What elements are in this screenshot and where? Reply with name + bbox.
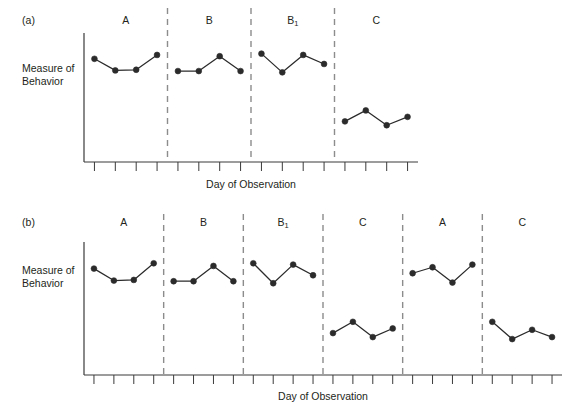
- data-point: [196, 68, 202, 74]
- series-line: [261, 54, 324, 73]
- data-point: [430, 264, 436, 270]
- data-point: [250, 260, 256, 266]
- data-point: [469, 262, 475, 268]
- data-point: [111, 278, 117, 284]
- data-point: [310, 272, 316, 278]
- series-line: [178, 56, 241, 71]
- data-point: [450, 280, 456, 286]
- x-axis-label-a: Day of Observation: [156, 178, 346, 190]
- data-point: [91, 266, 97, 272]
- data-point: [175, 68, 181, 74]
- data-point: [350, 319, 356, 325]
- data-point: [112, 68, 118, 74]
- data-point: [290, 262, 296, 268]
- data-point: [549, 334, 555, 340]
- data-point: [217, 53, 223, 59]
- data-point: [384, 122, 390, 128]
- data-point: [211, 263, 217, 269]
- series-line: [174, 266, 234, 281]
- data-point: [151, 260, 157, 266]
- data-point: [270, 280, 276, 286]
- chart-panel-b: (b) Measure of Behavior A B B1 C A C Day…: [0, 200, 576, 413]
- series-line: [94, 263, 154, 280]
- data-point: [230, 278, 236, 284]
- data-point: [321, 61, 327, 67]
- series-line: [345, 110, 408, 125]
- series-line: [253, 263, 313, 283]
- x-axis-label-b: Day of Observation: [228, 390, 418, 402]
- data-point: [131, 277, 137, 283]
- data-point: [259, 51, 265, 57]
- data-point: [92, 56, 98, 62]
- series-line: [413, 265, 473, 283]
- series-line: [492, 322, 552, 339]
- data-point: [489, 319, 495, 325]
- chart-panel-a: (a) Measure of Behavior A B B1 C Day of …: [0, 0, 576, 200]
- plot-area-a: [0, 0, 576, 200]
- data-point: [154, 52, 160, 58]
- data-point: [133, 67, 139, 73]
- data-point: [410, 270, 416, 276]
- data-point: [390, 326, 396, 332]
- data-point: [509, 336, 515, 342]
- data-point: [342, 118, 348, 124]
- data-point: [238, 68, 244, 74]
- data-point: [370, 334, 376, 340]
- figure-root: (a) Measure of Behavior A B B1 C Day of …: [0, 0, 576, 413]
- data-point: [171, 278, 177, 284]
- data-point: [191, 278, 197, 284]
- data-point: [279, 69, 285, 75]
- data-point: [405, 114, 411, 120]
- series-line: [333, 322, 393, 337]
- data-point: [300, 52, 306, 58]
- data-point: [363, 108, 369, 114]
- data-point: [529, 327, 535, 333]
- series-line: [94, 55, 157, 70]
- data-point: [330, 330, 336, 336]
- plot-area-b: [0, 200, 576, 413]
